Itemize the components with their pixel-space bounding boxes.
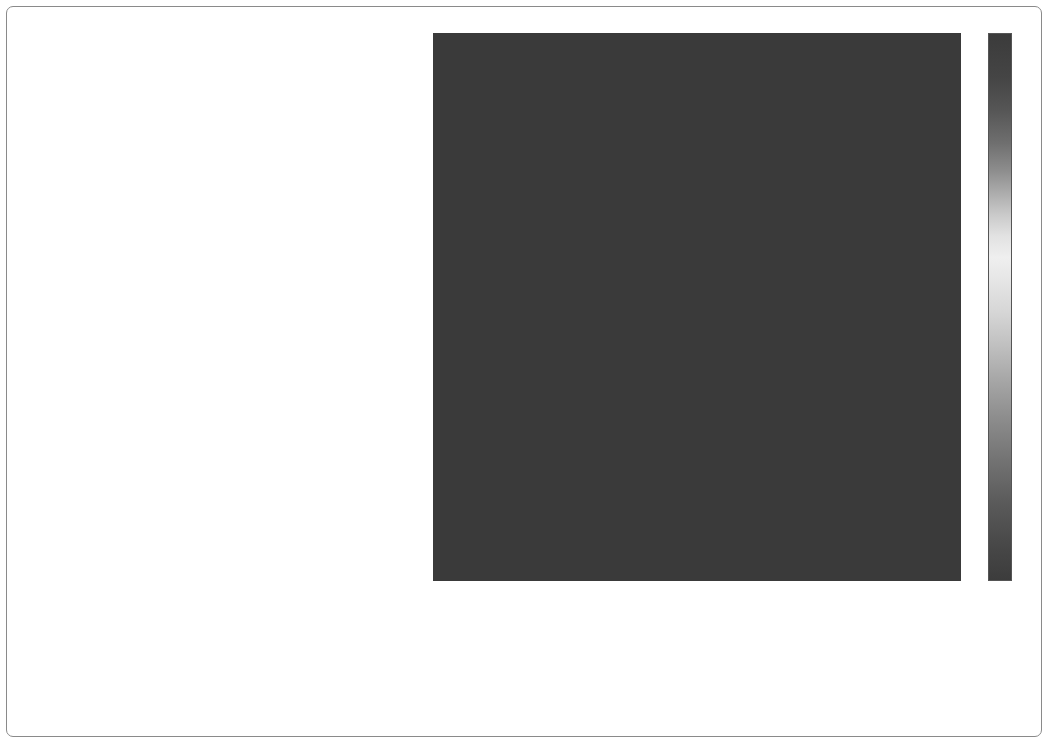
x-axis-labels bbox=[433, 585, 961, 735]
figure-canvas bbox=[0, 0, 1050, 749]
colorbar bbox=[988, 33, 1012, 581]
y-axis-labels bbox=[120, 33, 426, 581]
heatmap-grid bbox=[433, 33, 961, 581]
heatmap-plot-area bbox=[433, 33, 961, 581]
colorbar-gradient bbox=[988, 33, 1012, 581]
